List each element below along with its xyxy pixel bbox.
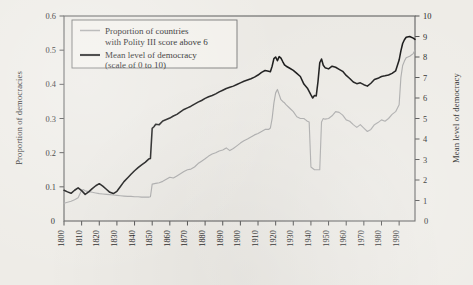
y-tick-label-right: 2	[423, 176, 427, 185]
x-tick-label: 1890	[216, 230, 225, 247]
y-tick-label-left: 0.6	[46, 12, 56, 21]
legend-label-proportion-line2: with Polity III score above 6	[105, 37, 208, 47]
y-tick-label-right: 8	[423, 53, 427, 62]
x-tick-label: 1830	[110, 230, 119, 247]
x-tick-label: 1850	[145, 230, 154, 247]
y-tick-label-left: 0.2	[46, 149, 56, 158]
y-tick-label-left: 0.1	[46, 183, 56, 192]
x-tick-label: 1800	[57, 230, 66, 247]
legend-label-mean-level-line2: (scale of 0 to 10)	[105, 60, 166, 70]
y-tick-label-left: 0.3	[46, 115, 56, 124]
y-tick-label-right: 9	[423, 33, 427, 42]
y-axis-right-title: Mean level of democracy	[451, 72, 461, 162]
x-tick-label: 1810	[75, 230, 84, 247]
y-tick-label-right: 5	[423, 115, 427, 124]
x-tick-label: 1970	[357, 230, 366, 247]
chart-legend: Proportion of countries with Polity III …	[72, 20, 237, 70]
x-tick-label: 1980	[374, 230, 383, 247]
y-tick-label-right: 6	[423, 94, 427, 103]
legend-label-mean-level-line1: Mean level of democracy	[105, 50, 197, 60]
y-tick-label-right: 7	[423, 74, 427, 83]
y-tick-label-left: 0.4	[46, 80, 57, 89]
x-tick-label: 1960	[339, 230, 348, 247]
y-tick-label-left: 0.5	[46, 46, 56, 55]
x-tick-label: 1920	[269, 230, 278, 247]
democracy-trend-chart: 1800181018201830184018501860187018801890…	[0, 0, 473, 285]
x-tick-label: 1930	[286, 230, 295, 247]
y-tick-label-right: 0	[424, 217, 428, 226]
x-tick-label: 1880	[198, 230, 207, 247]
y-tick-label-left: 0	[51, 217, 55, 226]
y-tick-label-right: 1	[423, 197, 427, 206]
x-tick-label: 1900	[233, 230, 242, 247]
y-tick-label-right: 10	[423, 12, 431, 21]
x-tick-label: 1860	[163, 230, 172, 247]
legend-label-proportion-line1: Proportion of countries	[105, 26, 189, 36]
x-tick-label: 1950	[322, 230, 331, 247]
y-tick-label-right: 3	[423, 156, 427, 165]
x-tick-label: 1990	[392, 230, 401, 247]
chart-container: 1800181018201830184018501860187018801890…	[0, 0, 473, 285]
x-tick-label: 1910	[251, 230, 260, 247]
y-axis-left-title: Proportion of democracies	[14, 71, 24, 165]
x-tick-label: 1820	[92, 230, 101, 247]
x-tick-label: 1840	[128, 230, 137, 247]
x-tick-label: 1870	[180, 230, 189, 247]
x-tick-label: 1940	[304, 230, 313, 247]
